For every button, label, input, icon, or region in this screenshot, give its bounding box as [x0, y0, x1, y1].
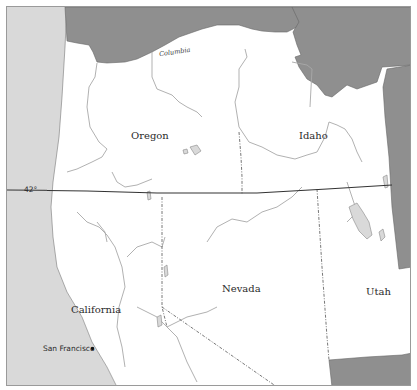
city-label-san-francisco: San Francisco — [43, 344, 95, 353]
city-marker-san-francisco — [91, 347, 94, 350]
state-label-oregon: Oregon — [131, 130, 169, 141]
state-label-california: California — [71, 304, 121, 315]
state-label-utah: Utah — [366, 286, 391, 297]
parallel-label-42: 42° — [24, 185, 37, 194]
state-label-nevada: Nevada — [222, 283, 261, 294]
state-label-idaho: Idaho — [299, 130, 328, 141]
map-canvas — [7, 7, 411, 386]
map-frame: Columbia Oregon Idaho California Nevada … — [6, 6, 411, 386]
